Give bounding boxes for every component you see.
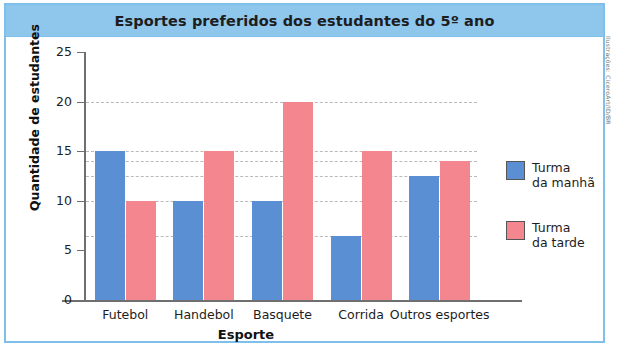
x-axis-title: Esporte: [6, 327, 486, 342]
bar-turma-da-manha: [252, 201, 282, 300]
y-axis-tick: [77, 250, 85, 251]
legend-item-turma-da-manha: Turma da manhã: [506, 160, 601, 190]
y-axis-tick: [77, 300, 85, 301]
y-axis-tick-label: 15: [42, 143, 72, 158]
image-credit: Ilustrações: CiceroArt/ID/BR: [605, 36, 612, 125]
bar-turma-da-manha: [409, 176, 439, 300]
gridline: [86, 151, 477, 152]
y-axis-tick: [77, 102, 85, 103]
y-axis-tick: [77, 201, 85, 202]
gridline: [86, 102, 477, 103]
gridline: [86, 161, 477, 162]
y-axis-tick-label: 20: [42, 94, 72, 109]
chart-legend: Turma da manhãTurma da tarde: [506, 160, 601, 280]
x-axis-category-label: Corrida: [338, 307, 384, 322]
y-axis-title: Quantidade de estudantes: [27, 8, 42, 228]
bar-turma-da-tarde: [126, 201, 156, 300]
y-axis-tick-label: 0: [42, 292, 72, 307]
x-axis-category-label: Handebol: [174, 307, 234, 322]
x-axis-category-label: Basquete: [253, 307, 312, 322]
bar-turma-da-tarde: [283, 102, 313, 300]
x-axis-category-label: Futebol: [102, 307, 148, 322]
chart-figure: Esportes preferidos dos estudantes do 5º…: [4, 3, 605, 343]
bar-turma-da-manha: [331, 236, 361, 300]
y-axis-tick-label: 5: [42, 242, 72, 257]
legend-swatch-turma-da-tarde: [506, 221, 525, 240]
chart-title: Esportes preferidos dos estudantes do 5º…: [115, 13, 495, 29]
y-axis-tick-label: 10: [42, 193, 72, 208]
legend-swatch-turma-da-manha: [506, 161, 525, 180]
legend-item-turma-da-tarde: Turma da tarde: [506, 220, 601, 250]
legend-label-turma-da-tarde: Turma da tarde: [532, 220, 585, 250]
bar-turma-da-manha: [173, 201, 203, 300]
x-axis-line: [62, 300, 522, 302]
bar-turma-da-manha: [95, 151, 125, 300]
x-axis-category-label: Outros esportes: [390, 307, 490, 322]
bar-turma-da-tarde: [204, 151, 234, 300]
bar-turma-da-tarde: [440, 161, 470, 300]
chart-title-banner: Esportes preferidos dos estudantes do 5º…: [6, 5, 603, 37]
y-axis-tick: [77, 151, 85, 152]
y-axis-tick-label: 25: [42, 44, 72, 59]
legend-label-turma-da-manha: Turma da manhã: [532, 160, 595, 190]
bar-turma-da-tarde: [362, 151, 392, 300]
y-axis-tick: [77, 52, 85, 53]
